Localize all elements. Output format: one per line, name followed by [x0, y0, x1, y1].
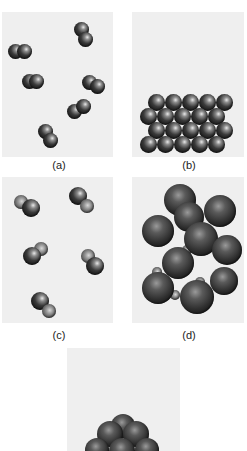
atom-icon [78, 32, 93, 47]
panel-a-label: (a) [29, 159, 89, 171]
panel-d-label: (d) [159, 329, 219, 341]
panel-b [132, 12, 244, 157]
panel-a [2, 12, 113, 157]
panel-b-label: (b) [159, 159, 219, 171]
atom-icon [80, 199, 94, 213]
atom-icon [23, 247, 41, 265]
atom-icon [17, 44, 32, 59]
atom-icon [86, 257, 104, 275]
atom-icon [43, 133, 58, 148]
atom-icon [22, 199, 40, 217]
atom-pyramid [67, 348, 180, 451]
atom-icon [76, 99, 91, 114]
atom-icon [42, 304, 56, 318]
atom-lattice [132, 12, 244, 157]
atom-icon [29, 74, 44, 89]
panel-c [2, 177, 113, 323]
panel-d [132, 177, 244, 323]
atom-cluster [132, 177, 244, 323]
panel-e [67, 348, 180, 451]
panel-c-label: (c) [29, 329, 89, 341]
atom-icon [90, 79, 105, 94]
